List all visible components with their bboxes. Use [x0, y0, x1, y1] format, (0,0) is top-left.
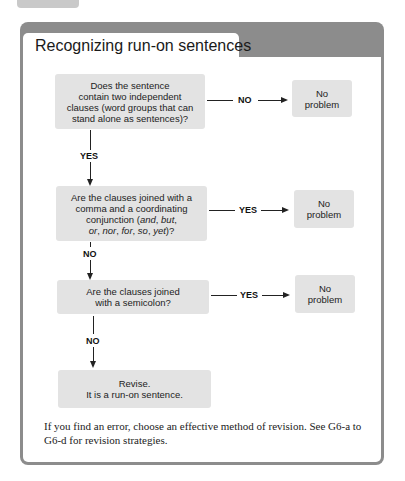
arrow-line — [90, 242, 91, 247]
text-line: comma and a coordinating — [76, 203, 188, 214]
text-line: No — [319, 283, 331, 294]
arrow-down-icon — [90, 361, 96, 368]
text-line: stand alone as sentences)? — [72, 113, 188, 124]
text-line: problem — [305, 99, 339, 110]
question-coordinating-conjunction: Are the clauses joined with a comma and … — [56, 186, 207, 241]
text-line: problem — [307, 209, 341, 220]
question-semicolon: Are the clauses joined with a semicolon? — [57, 280, 209, 314]
revision-note: If you find an error, choose an effectiv… — [44, 419, 364, 447]
text-line: No — [318, 198, 330, 209]
text-line: contain two independent — [79, 91, 182, 102]
arrow-line — [90, 130, 91, 150]
text-line: It is a run-on sentence. — [86, 389, 183, 400]
arrow-right-icon — [281, 97, 288, 103]
text-line: Revise. — [119, 378, 151, 389]
arrow-line — [90, 162, 91, 180]
arrow-line — [207, 100, 233, 101]
yes-label: YES — [240, 290, 258, 300]
result-no-problem: No problem — [292, 80, 352, 117]
arrow-line — [261, 210, 283, 211]
no-label: NO — [86, 336, 100, 346]
result-no-problem: No problem — [294, 190, 354, 228]
text-line: Are the clauses joined — [86, 286, 179, 297]
arrow-line — [90, 260, 91, 274]
text-line: Does the sentence — [90, 80, 169, 91]
arrow-line — [262, 295, 284, 296]
result-revise: Revise. It is a run-on sentence. — [58, 370, 211, 408]
text-line: or, nor, for, so, yet)? — [89, 225, 175, 236]
no-label: NO — [238, 95, 252, 105]
text-line: Are the clauses joined with a — [71, 192, 192, 203]
text-line: conjunction (and, but, — [86, 214, 177, 225]
text-line: problem — [308, 294, 342, 305]
arrow-line — [211, 295, 237, 296]
arrow-down-icon — [87, 273, 93, 280]
arrow-right-icon — [283, 292, 290, 298]
text-line: No — [316, 88, 328, 99]
arrow-line — [258, 100, 282, 101]
chart-title: Recognizing run-on sentences — [35, 37, 251, 55]
yes-label: YES — [239, 205, 257, 215]
yes-label: YES — [80, 151, 98, 161]
arrow-line — [93, 347, 94, 362]
text-line: clauses (word groups that can — [67, 102, 194, 113]
result-no-problem: No problem — [295, 275, 355, 313]
arrow-line — [93, 316, 94, 334]
section-tab — [17, 0, 79, 8]
text-line: with a semicolon? — [95, 297, 171, 308]
arrow-line — [209, 210, 235, 211]
no-label: NO — [83, 249, 97, 259]
arrow-right-icon — [282, 207, 289, 213]
arrow-down-icon — [87, 179, 93, 186]
question-independent-clauses: Does the sentence contain two independen… — [55, 74, 205, 129]
